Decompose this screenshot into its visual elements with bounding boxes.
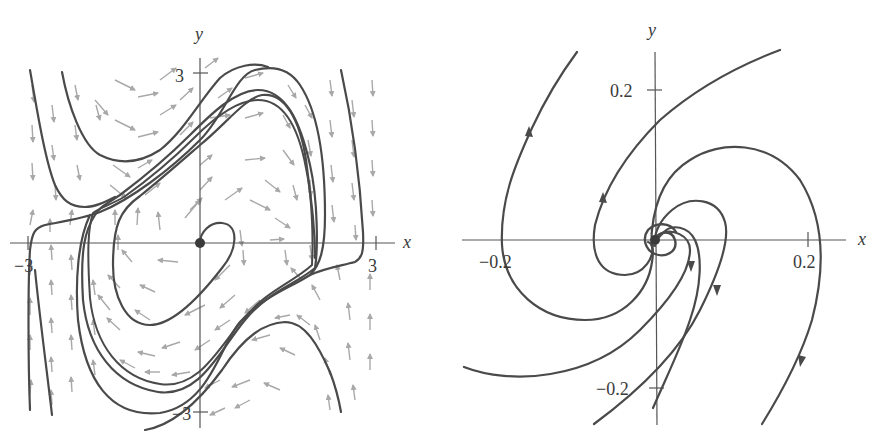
- trajectories: [29, 65, 364, 430]
- right-y-axis-label: y: [646, 20, 656, 40]
- left-x-tick-label-neg: −3: [14, 256, 33, 276]
- trajectory-right: [310, 70, 363, 275]
- arrow-down-icon: [798, 355, 806, 367]
- left-y-axis-label: y: [193, 24, 203, 44]
- right-y-tick-label-neg: −0.2: [596, 379, 629, 399]
- right-phase-portrait: y x 0.2 −0.2 −0.2 0.2: [462, 20, 866, 425]
- trajectory-outer-cycle: [29, 68, 326, 413]
- arrow-down-icon: [687, 261, 695, 272]
- right-y-tick-label-pos: 0.2: [610, 81, 633, 101]
- trajectory-left-upper: [30, 70, 115, 207]
- right-x-tick-label-neg: −0.2: [479, 252, 512, 272]
- spiral-center: [650, 235, 660, 245]
- arrow-down-icon: [713, 285, 721, 296]
- trajectory-upper-u: [62, 65, 268, 162]
- right-x-axis-label: x: [857, 229, 866, 249]
- trajectory-direction-arrows: [525, 126, 806, 367]
- left-x-axis-label: x: [402, 232, 411, 252]
- trajectory-left-lower: [35, 270, 52, 415]
- right-x-tick-label-pos: 0.2: [793, 252, 816, 272]
- figure-canvas: y x 3 −3 −3 3: [0, 0, 884, 443]
- trajectory-spiral: [113, 95, 315, 325]
- left-y-tick-label-pos: 3: [175, 66, 184, 86]
- spiral-trajectories: [464, 50, 821, 424]
- left-phase-portrait: y x 3 −3 −3 3: [10, 24, 411, 430]
- left-x-tick-label-pos: 3: [368, 256, 377, 276]
- left-y-tick-label-neg: −3: [172, 404, 191, 424]
- equilibrium-point: [195, 238, 205, 248]
